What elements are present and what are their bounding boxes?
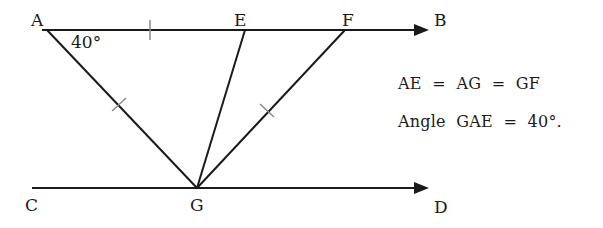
point-label-e: E: [234, 12, 246, 29]
angle-gae-label: 40°: [71, 34, 101, 51]
arrow-d-icon: [414, 182, 429, 194]
point-label-g: G: [190, 197, 204, 214]
given-equal-lengths: AE = AG = GF: [398, 76, 540, 92]
given-angle-gae: Angle GAE = 40°.: [398, 114, 562, 130]
point-label-b: B: [434, 12, 447, 29]
point-label-a: A: [31, 12, 43, 29]
segment-fg: [197, 30, 345, 188]
tick-gf-icon: [260, 104, 274, 117]
point-label-d: D: [434, 199, 448, 216]
point-label-c: C: [25, 197, 38, 214]
segment-ag: [47, 30, 197, 188]
point-label-f: F: [342, 12, 354, 29]
arrow-b-icon: [414, 24, 429, 36]
segment-eg: [197, 30, 245, 188]
